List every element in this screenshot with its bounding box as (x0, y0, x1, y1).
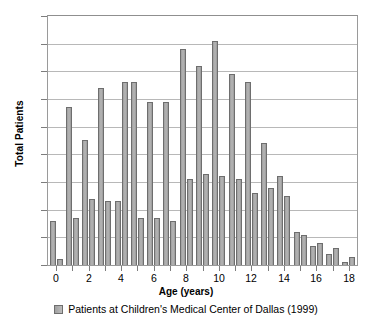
bar (73, 218, 79, 265)
bar (170, 221, 176, 265)
bar-group (277, 16, 290, 265)
y-tick-mark (41, 71, 47, 72)
bar (163, 102, 169, 265)
bar-group (196, 16, 209, 265)
bar (349, 257, 355, 265)
y-tick-mark (41, 16, 47, 17)
bar (196, 66, 202, 265)
x-tick-mark (72, 266, 73, 271)
y-tick-mark (41, 99, 47, 100)
bar-group (180, 16, 193, 265)
x-tick-mark (186, 266, 187, 271)
bar (187, 179, 193, 265)
bar (229, 74, 235, 265)
bar (294, 232, 300, 265)
bar (326, 254, 332, 265)
bar-series-layer (48, 16, 357, 265)
bar (66, 107, 72, 265)
bar (82, 140, 88, 265)
bar (284, 196, 290, 265)
bar-group (310, 16, 323, 265)
x-tick-label: 8 (174, 272, 198, 284)
bar (342, 262, 348, 265)
x-tick-mark (137, 266, 138, 271)
bar (131, 82, 137, 265)
x-tick-mark (268, 266, 269, 271)
y-tick-mark (41, 210, 47, 211)
x-tick-mark (235, 266, 236, 271)
bar (180, 49, 186, 265)
bar (147, 102, 153, 265)
bar (333, 248, 339, 265)
chart-legend: Patients at Children's Medical Center of… (0, 303, 372, 315)
bar (317, 243, 323, 265)
bar-group (163, 16, 176, 265)
x-tick-mark (105, 266, 106, 271)
bar-group (212, 16, 225, 265)
x-tick-mark (251, 266, 252, 271)
x-tick-mark (219, 266, 220, 271)
bar-group (147, 16, 160, 265)
bar-group (131, 16, 144, 265)
bar (50, 221, 56, 265)
legend-label: Patients at Children's Medical Center of… (68, 303, 317, 315)
x-tick-mark (121, 266, 122, 271)
bar (268, 188, 274, 265)
bar (203, 174, 209, 265)
bar (89, 199, 95, 265)
bar (236, 179, 242, 265)
x-tick-mark (56, 266, 57, 271)
x-tick-mark (316, 266, 317, 271)
bar (277, 176, 283, 265)
bar (122, 82, 128, 265)
x-tick-label: 4 (109, 272, 133, 284)
bar (154, 218, 160, 265)
x-tick-label: 2 (77, 272, 101, 284)
bar (212, 41, 218, 265)
x-tick-label: 12 (239, 272, 263, 284)
bar-group (326, 16, 339, 265)
bar (245, 82, 251, 265)
x-tick-mark (284, 266, 285, 271)
x-tick-label: 14 (272, 272, 296, 284)
bar-group (98, 16, 111, 265)
bar (115, 201, 121, 265)
bar-group (50, 16, 63, 265)
x-tick-mark (300, 266, 301, 271)
x-axis-title: Age (years) (0, 286, 372, 297)
x-tick-mark (154, 266, 155, 271)
x-tick-mark (333, 266, 334, 271)
x-tick-label: 0 (44, 272, 68, 284)
bar-group (342, 16, 355, 265)
y-tick-mark (41, 44, 47, 45)
x-tick-label: 6 (142, 272, 166, 284)
bar-group (115, 16, 128, 265)
chart-container: Total Patients 9080706050403020100 02468… (0, 0, 372, 319)
bar (219, 176, 225, 265)
y-tick-mark (41, 182, 47, 183)
x-tick-mark (170, 266, 171, 271)
bar (138, 218, 144, 265)
bar (98, 88, 104, 265)
y-tick-mark (41, 127, 47, 128)
bar-group (66, 16, 79, 265)
x-tick-mark (89, 266, 90, 271)
y-axis-title: Total Patients (14, 79, 25, 189)
x-tick-label: 18 (337, 272, 361, 284)
bar-group (245, 16, 258, 265)
bar (57, 259, 63, 265)
bar-group (82, 16, 95, 265)
y-tick-mark (41, 237, 47, 238)
bar (301, 235, 307, 265)
y-tick-mark (41, 265, 47, 266)
legend-swatch-icon (54, 305, 63, 314)
bar (105, 201, 111, 265)
bar-group (294, 16, 307, 265)
bar-group (229, 16, 242, 265)
x-tick-label: 10 (207, 272, 231, 284)
bar (310, 246, 316, 265)
x-tick-label: 16 (304, 272, 328, 284)
x-tick-mark (203, 266, 204, 271)
y-tick-mark (41, 154, 47, 155)
x-tick-mark (349, 266, 350, 271)
